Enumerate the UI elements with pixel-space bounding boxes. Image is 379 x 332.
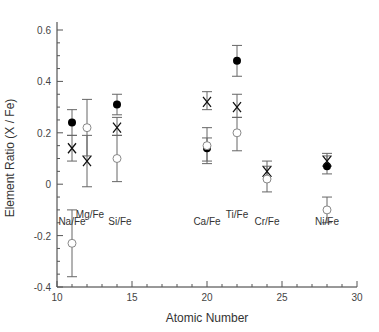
filled-circle-marker (233, 57, 241, 65)
chart: -0.4-0.200.20.40.61015202530 Na/FeMg/FeS… (0, 0, 379, 332)
y-tick-label: -0.2 (34, 231, 52, 242)
open-circle-marker (203, 142, 211, 150)
element-label: Cr/Fe (255, 216, 280, 227)
filled-circle-marker (113, 101, 121, 109)
y-tick-label: 0.6 (37, 25, 51, 36)
open-circle-marker (83, 124, 91, 132)
open-circle-marker (68, 239, 76, 247)
y-tick-label: -0.4 (34, 282, 52, 293)
y-tick-label: 0.2 (37, 128, 51, 139)
filled-circle-marker (323, 162, 331, 170)
element-label: Mg/Fe (76, 209, 105, 220)
y-tick-label: 0.4 (37, 76, 51, 87)
error-bars (67, 45, 332, 276)
x-axis-label: Atomic Number (166, 311, 249, 325)
element-label: Si/Fe (108, 216, 132, 227)
x-tick-label: 20 (201, 292, 213, 303)
y-tick-label: 0 (45, 179, 51, 190)
element-label: Ti/Fe (226, 209, 249, 220)
x-tick-label: 15 (126, 292, 138, 303)
element-labels: Na/FeMg/FeSi/FeCa/FeTi/FeCr/FeNi/Fe (58, 209, 339, 228)
element-label: Ni/Fe (315, 216, 339, 227)
y-axis-label: Element Ratio (X / Fe) (3, 99, 17, 218)
axes: -0.4-0.200.20.40.61015202530 (34, 22, 363, 303)
filled-circle-marker (68, 119, 76, 127)
open-circle-marker (263, 175, 271, 183)
open-circle-marker (113, 155, 121, 163)
x-tick-label: 10 (51, 292, 63, 303)
x-tick-label: 25 (276, 292, 288, 303)
element-label: Ca/Fe (193, 216, 221, 227)
open-circle-marker (323, 206, 331, 214)
x-tick-label: 30 (351, 292, 363, 303)
open-circle-marker (233, 129, 241, 137)
